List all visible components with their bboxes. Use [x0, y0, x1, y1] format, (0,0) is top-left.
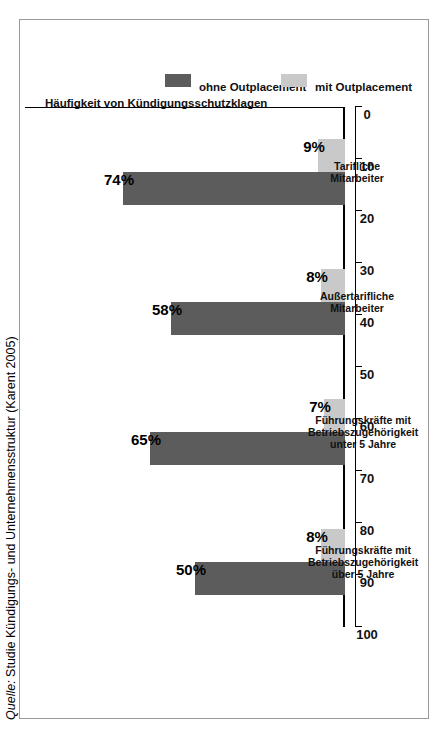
source-text: Studie Kündigungs- und Unternehmensstruk…: [4, 336, 18, 680]
axis-rule: [355, 107, 356, 627]
value-axis-title: Häufigkeit von Kündigungsschutzklagen: [45, 97, 267, 109]
legend-swatch: [165, 74, 191, 87]
axis-tick-label: 70: [360, 471, 374, 486]
bar-value-label: 58%: [152, 302, 182, 319]
bar-pair: 58%8%: [171, 269, 345, 335]
axis-tick-label: 90: [360, 575, 374, 590]
value-axis-scale: 0102030405060708090100: [355, 107, 415, 627]
axis-tick-label: 40: [360, 315, 374, 330]
axis-tick-label: 100: [356, 627, 378, 642]
rotated-figure-wrapper: 50%8%Führungskräfte mit Betriebszugehöri…: [0, 0, 448, 738]
axis-tick-label: 60: [360, 419, 374, 434]
axis-tick: [355, 106, 362, 107]
bar-value-label: 8%: [306, 269, 328, 286]
axis-tick-label: 20: [360, 211, 374, 226]
bar-value-label: 9%: [303, 139, 325, 156]
axis-tick-label: 80: [360, 523, 374, 538]
bar-ohne-outplacement: 58%: [171, 302, 345, 335]
chart-legend: Häufigkeit von Kündigungsschutzklagen oh…: [45, 39, 345, 95]
legend-swatch: [281, 74, 307, 87]
bar-group: 65%7%Führungskräfte mit Betriebszugehöri…: [45, 367, 345, 497]
bar-group: 74%9%Tarifliche Mitarbeiter: [45, 107, 345, 237]
plot-area: 50%8%Führungskräfte mit Betriebszugehöri…: [45, 107, 345, 627]
bar-chart-figure: 50%8%Führungskräfte mit Betriebszugehöri…: [19, 19, 429, 719]
axis-tick-label: 0: [363, 107, 370, 122]
chart-page: 50%8%Führungskräfte mit Betriebszugehöri…: [0, 0, 448, 738]
legend-label: mit Outplacement: [315, 81, 412, 93]
bar-group: 50%8%Führungskräfte mit Betriebszugehöri…: [45, 497, 345, 627]
bar-group: 58%8%Außertarifliche Mitarbeiter: [45, 237, 345, 367]
axis-tick-label: 10: [360, 159, 374, 174]
bar-ohne-outplacement: 74%: [123, 172, 345, 205]
bar-pair: 74%9%: [123, 139, 345, 205]
source-prefix: Quelle:: [4, 680, 18, 720]
axis-tick-label: 30: [360, 263, 374, 278]
bar-value-label: 74%: [104, 172, 134, 189]
bar-value-label: 65%: [131, 432, 161, 449]
axis-tick-label: 50: [360, 367, 374, 382]
bar-value-label: 50%: [176, 562, 206, 579]
